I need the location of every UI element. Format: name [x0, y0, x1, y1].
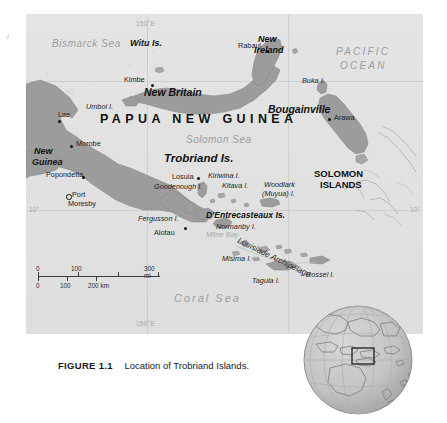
- island-label-dentrecasteaux: D'Entrecasteaux Is.: [206, 210, 285, 220]
- figure-caption-text: Location of Trobriand Islands.: [124, 360, 249, 371]
- island-label-goodenough: Goodenough I.: [154, 182, 202, 191]
- city-dot-rabaul: [266, 50, 269, 53]
- scale-label-km-200: 200 km: [88, 282, 109, 289]
- coordinate-label-latitude-left: 10°: [29, 206, 40, 213]
- scale-label-mi-100: 100: [71, 265, 82, 272]
- scale-tick-km-0: [38, 276, 39, 281]
- city-label-losuia: Losuia: [172, 172, 194, 181]
- region-label-new-guinea-line2: Guinea: [32, 157, 63, 167]
- city-dot-lae: [58, 120, 61, 123]
- sea-label-coral: Coral Sea: [174, 292, 241, 304]
- island-label-trobriand: Trobriand Is.: [164, 152, 233, 164]
- island-label-umboi: Umboi I.: [86, 102, 113, 111]
- city-label-port: Port: [72, 190, 85, 199]
- island-label-new-britain: New Britain: [144, 86, 202, 98]
- island-label-tagula: Tagula I.: [252, 276, 280, 285]
- scale-tick-mi-200: [118, 272, 119, 277]
- city-label-rabaul: Rabaul: [238, 41, 261, 50]
- scale-bar-graphic: 0 100 300 mi 0 100 200 km: [38, 272, 160, 281]
- city-dot-alotau: [184, 227, 187, 230]
- sea-label-solomon: Solomon Sea: [186, 134, 252, 145]
- city-label-kimbe: Kimbe: [124, 75, 145, 84]
- bay-label-milne: Milne Bay: [206, 230, 238, 239]
- island-label-kiriwina: Kiriwina I.: [208, 171, 240, 180]
- island-label-fergusson: Fergusson I.: [138, 214, 179, 223]
- scale-label-mi-300: 300 mi: [144, 265, 160, 279]
- scale-tick-km-200: [96, 276, 97, 281]
- sea-label-bismarck: Bismarck Sea: [52, 38, 121, 49]
- island-label-kitava: Kitava I.: [222, 181, 248, 190]
- figure-caption: FIGURE 1.1 Location of Trobriand Islands…: [58, 360, 249, 371]
- city-dot-losuia: [197, 177, 200, 180]
- city-label-popondetta: Popondetta: [46, 170, 83, 179]
- city-label-lae: Lae: [58, 110, 70, 119]
- map-panel[interactable]: Bismarck Sea PACIFIC OCEAN Solomon Sea C…: [26, 14, 423, 334]
- island-label-bougainville: Bougainville: [268, 103, 330, 115]
- city-dot-kimbe: [151, 84, 154, 87]
- region-label-solomon-islands-line1: SOLOMON: [314, 168, 363, 179]
- ocean-label-pacific-line2: OCEAN: [340, 60, 387, 71]
- city-label-moresby: Moresby: [68, 199, 96, 208]
- scale-tick-km-100: [67, 276, 68, 281]
- coordinate-label-longitude-top: 150°E: [136, 20, 155, 27]
- figure-page: i: [0, 0, 447, 423]
- coordinate-label-longitude-bottom: 150°E: [136, 320, 155, 327]
- city-label-arawa: Arawa: [334, 113, 355, 122]
- region-label-solomon-islands-line2: ISLANDS: [320, 179, 362, 190]
- figure-number: FIGURE 1.1: [58, 360, 113, 371]
- island-label-woodlark-line2: (Muyua) I.: [262, 189, 295, 198]
- page-margin-mark: i: [7, 32, 10, 41]
- scale-label-km-100: 100: [60, 282, 71, 289]
- island-label-woodlark-line1: Woodlark: [264, 180, 295, 189]
- globe-graphic: [296, 300, 428, 420]
- scale-label-km-0: 0: [36, 282, 40, 289]
- globe-inset[interactable]: [296, 300, 428, 420]
- island-label-normanby: Normanby I.: [216, 222, 256, 231]
- city-label-morobe: Morobe: [76, 139, 101, 148]
- city-dot-morobe: [70, 145, 73, 148]
- ocean-label-pacific-line1: PACIFIC: [336, 46, 390, 57]
- city-dot-arawa: [328, 118, 331, 121]
- scale-rule: [38, 276, 160, 277]
- island-label-buka: Buka I.: [302, 76, 325, 85]
- scale-label-mi-0: 0: [36, 265, 40, 272]
- map-scale-bar: 0 100 300 mi 0 100 200 km: [38, 272, 160, 281]
- scale-tick-mi-100: [78, 272, 79, 277]
- city-label-alotau: Alotau: [154, 228, 175, 237]
- island-label-misima: Misima I.: [222, 254, 251, 263]
- coordinate-label-latitude-right: 10°: [410, 206, 421, 213]
- region-label-new-guinea-line1: New: [34, 146, 53, 156]
- island-label-witu: Witu Is.: [130, 38, 162, 48]
